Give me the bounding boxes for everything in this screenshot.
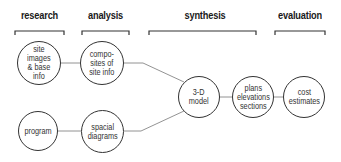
- bracket-evaluation: [275, 31, 325, 35]
- edge-spacial-model: [124, 111, 184, 131]
- bracket-research: [15, 31, 64, 35]
- edge-composites-model: [124, 63, 184, 82]
- node-site-images: site images & base info: [17, 41, 61, 85]
- phase-analysis: analysis: [82, 9, 129, 21]
- node-plans: plans elevations sections: [232, 76, 274, 118]
- node-3d-model: 3-D model: [178, 76, 220, 118]
- phase-synthesis: synthesis: [174, 9, 236, 21]
- phase-evaluation: evaluation: [275, 9, 324, 21]
- node-program: program: [18, 111, 58, 151]
- node-cost-estimates: cost estimates: [283, 76, 325, 118]
- bracket-analysis: [82, 31, 129, 35]
- phase-research: research: [15, 9, 63, 21]
- bracket-synthesis: [149, 31, 256, 35]
- node-spacial-diagrams: spacial diagrams: [81, 110, 124, 153]
- node-composites: compo- sites of site info: [80, 41, 124, 85]
